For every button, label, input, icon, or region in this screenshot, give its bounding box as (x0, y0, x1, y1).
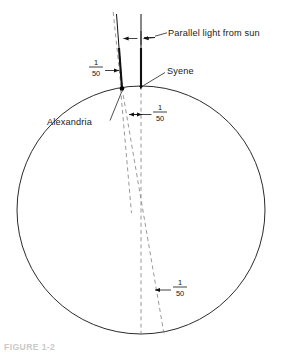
figure-container: Parallel light from sun Syene Alexandria… (0, 0, 283, 353)
sun-ray-alexandria-thick (119, 48, 122, 88)
svg-text:1: 1 (94, 58, 98, 67)
svg-text:1: 1 (158, 103, 162, 112)
svg-text:50: 50 (176, 289, 184, 298)
parallel-light-label: Parallel light from sun (168, 28, 260, 38)
alexandria-point-marker (120, 86, 125, 91)
alexandria-leader (110, 92, 122, 121)
syene-label: Syene (167, 66, 194, 76)
svg-text:1: 1 (178, 278, 182, 287)
dashed-ray-through-center (122, 88, 164, 334)
fraction-angle-surface: 1 50 (129, 103, 167, 123)
alexandria-label: Alexandria (47, 117, 93, 127)
fraction-angle-center: 1 50 (155, 278, 187, 298)
parallel-light-leader (155, 33, 167, 36)
syene-leader (144, 73, 166, 86)
fraction-angle-top-left: 1 50 (89, 58, 119, 78)
eratosthenes-diagram: Parallel light from sun Syene Alexandria… (0, 0, 283, 353)
svg-text:50: 50 (92, 69, 100, 78)
svg-text:50: 50 (156, 114, 164, 123)
figure-caption: FIGURE 1-2 (4, 342, 55, 352)
dashed-radius-alexandria (121, 89, 132, 214)
